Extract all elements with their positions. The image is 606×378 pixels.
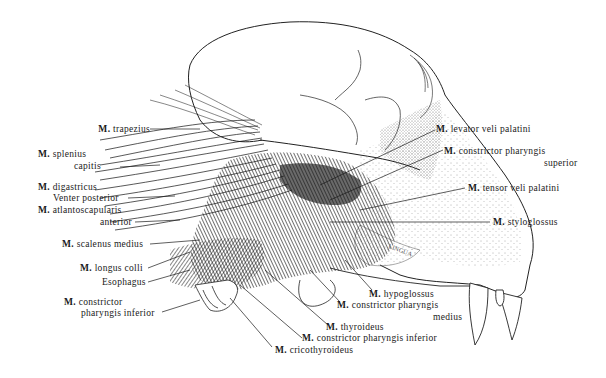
teeth bbox=[469, 283, 522, 345]
label-prefix: M. bbox=[302, 333, 314, 343]
label-prefix: M. bbox=[369, 289, 381, 299]
label-trapezius: M. trapezius bbox=[70, 124, 150, 135]
label-tensor-veli-palatini: M. tensor veli palatini bbox=[468, 183, 559, 194]
label-text: tensor veli palatini bbox=[483, 183, 560, 193]
label-digastricus: M. digastricus bbox=[38, 182, 97, 193]
label-levator-veli-palatini: M. levator veli palatini bbox=[436, 124, 531, 135]
label-prefix: M. bbox=[275, 345, 287, 355]
trachea bbox=[195, 280, 238, 311]
label-cricothyroideus: M. cricothyroideus bbox=[275, 345, 353, 356]
label-text: constrictor pharyngis inferior bbox=[317, 333, 437, 343]
label-styloglossus: M. styloglossus bbox=[493, 217, 558, 228]
label-text: pharyngis inferior bbox=[81, 308, 155, 318]
label-constrictor-superior: M. constrictor pharyngis bbox=[444, 146, 545, 157]
label-prefix: M. bbox=[493, 217, 505, 227]
label-text: levator veli palatini bbox=[451, 124, 531, 134]
label-text: cricothyroideus bbox=[290, 345, 354, 355]
label-prefix: M. bbox=[80, 263, 92, 273]
label-text: medius bbox=[433, 312, 462, 322]
label-esophagus: Esophagus bbox=[102, 277, 146, 288]
label-text: constrictor pharyngis bbox=[352, 300, 439, 310]
label-text: constrictor pharyngis bbox=[459, 146, 546, 156]
label-text: superior bbox=[544, 158, 578, 168]
label-prefix: M. bbox=[98, 124, 110, 134]
label-text: digastricus bbox=[53, 182, 97, 192]
label-text: anterior bbox=[100, 217, 132, 227]
label-prefix: M. bbox=[444, 146, 456, 156]
label-prefix: M. bbox=[38, 182, 50, 192]
label-text: capitis bbox=[74, 161, 101, 171]
label-prefix: M. bbox=[436, 124, 448, 134]
label-splenius: M. splenius bbox=[38, 149, 86, 160]
label-thyroideus: M. thyroideus bbox=[326, 322, 384, 333]
label-prefix: M. bbox=[337, 300, 349, 310]
label-splenius-line2: capitis bbox=[74, 161, 101, 172]
label-constrictor-medius-line2: medius bbox=[433, 312, 462, 323]
label-text: atlantoscapularis bbox=[53, 205, 122, 215]
label-text: hypoglossus bbox=[384, 289, 434, 299]
label-prefix: M. bbox=[38, 205, 50, 215]
label-hypoglossus: M. hypoglossus bbox=[369, 289, 434, 300]
label-text: splenius bbox=[53, 149, 87, 159]
mandible bbox=[330, 268, 470, 286]
label-text: Esophagus bbox=[102, 277, 146, 287]
label-text: scalenus medius bbox=[77, 239, 144, 249]
label-text: thyroideus bbox=[341, 322, 384, 332]
label-prefix: M. bbox=[38, 149, 50, 159]
label-constrictor-superior-line2: superior bbox=[544, 158, 578, 169]
label-scalenus: M. scalenus medius bbox=[62, 239, 143, 250]
label-text: Venter posterior bbox=[53, 193, 119, 203]
label-prefix: M. bbox=[64, 297, 76, 307]
label-atlantoscapularis-line2: anterior bbox=[100, 217, 132, 228]
label-atlantoscapularis: M. atlantoscapularis bbox=[38, 205, 122, 216]
label-text: longus colli bbox=[95, 263, 143, 273]
label-text: constrictor bbox=[79, 297, 123, 307]
label-constrictor-medius: M. constrictor pharyngis bbox=[337, 300, 438, 311]
label-prefix: M. bbox=[326, 322, 338, 332]
label-longus-colli: M. longus colli bbox=[80, 263, 143, 274]
label-digastricus-line2: Venter posterior bbox=[53, 193, 119, 204]
label-prefix: M. bbox=[62, 239, 74, 249]
label-constrictor-inferior-left-line2: pharyngis inferior bbox=[81, 308, 155, 319]
anatomy-figure: LINGUA M. trapezius M. splenius capitis … bbox=[0, 0, 606, 378]
label-text: trapezius bbox=[113, 124, 150, 134]
label-constrictor-inferior-left: M. constrictor bbox=[64, 297, 123, 308]
label-constrictor-inferior-bottom: M. constrictor pharyngis inferior bbox=[302, 333, 437, 344]
label-text: styloglossus bbox=[508, 217, 558, 227]
label-prefix: M. bbox=[468, 183, 480, 193]
